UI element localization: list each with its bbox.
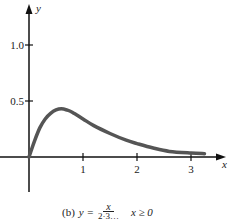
y-tick-label: 1.0 xyxy=(10,39,24,51)
y-axis-arrow-icon xyxy=(26,4,33,14)
figure-caption: (b) y = x 2·3… x ≥ 0 xyxy=(62,202,153,221)
caption-denominator: 2·3… xyxy=(98,212,119,221)
caption-condition: x ≥ 0 xyxy=(131,206,153,218)
y-tick-label: 0.5 xyxy=(10,95,24,107)
caption-lhs: y = xyxy=(79,206,94,218)
y-axis-label: y xyxy=(35,2,41,14)
curve-line xyxy=(29,109,205,157)
x-tick-label: 3 xyxy=(188,163,194,175)
x-tick-label: 2 xyxy=(134,163,140,175)
caption-fraction: x 2·3… xyxy=(98,202,119,221)
chart-canvas: 1230.51.0 y x xyxy=(0,0,228,223)
x-axis-label: x xyxy=(221,158,227,170)
caption-label: (b) xyxy=(62,206,75,218)
x-tick-label: 1 xyxy=(80,163,86,175)
